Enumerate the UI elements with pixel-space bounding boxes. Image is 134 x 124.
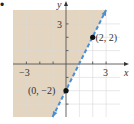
x-tick-label-neg3: −3 xyxy=(19,67,30,78)
x-axis-label: x xyxy=(123,67,129,78)
y-tick-label-3: 3 xyxy=(57,19,62,30)
y-axis-arrow-icon xyxy=(64,1,68,6)
point-0-neg2 xyxy=(63,88,68,93)
y-axis-label: y xyxy=(56,0,62,10)
inequality-graph: (2, 2) (0, −2) −3 3 3 x y xyxy=(0,0,134,124)
x-tick-label-3: 3 xyxy=(103,67,108,78)
point-label-2-2: (2, 2) xyxy=(96,32,118,44)
point-label-0-neg2: (0, −2) xyxy=(28,85,55,97)
x-axis-arrow-icon xyxy=(124,62,129,66)
